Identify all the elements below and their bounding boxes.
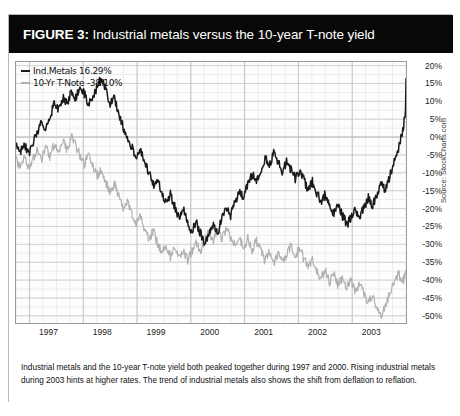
source-credit: Source: StockCharts.com [439,118,448,203]
y-axis-tick: 20% [425,61,442,70]
x-axis-tick: 2001 [254,327,273,337]
y-axis-tick: -40% [422,276,442,285]
y-axis-tick: -35% [422,258,442,267]
figure-number: FIGURE 3: [23,27,89,42]
figure-title-bar: FIGURE 3: Industrial metals versus the 1… [9,15,453,53]
legend-label-ind-metals: Ind.Metals 16.29% [33,66,112,76]
x-axis-labels: 1997199819992000200120022003 [15,327,407,343]
plot-frame: Ind.Metals 16.29% 10-Yr T-Note -38.10% [15,61,407,324]
y-axis-labels: 20%15%10%5%0%-5%-10%-15%-20%-25%-30%-35%… [408,61,442,324]
figure-caption: Industrial metals and the 10-year T-note… [21,362,441,387]
x-axis-tick: 2002 [308,327,327,337]
legend-item-t-note: 10-Yr T-Note -38.10% [21,77,122,88]
y-axis-tick: -50% [422,311,442,320]
y-axis-tick: 15% [425,79,442,88]
legend-swatch-ind-metals [21,70,30,72]
x-axis-tick: 2003 [362,327,381,337]
x-axis-tick: 1998 [93,327,112,337]
y-axis-tick: -30% [422,240,442,249]
figure-title: Industrial metals versus the 10-year T-n… [89,27,375,42]
line-chart [16,62,406,323]
page-title: FIGURE 3: Industrial metals versus the 1… [23,27,375,42]
y-axis-tick: -45% [422,293,442,302]
y-axis-tick: -25% [422,222,442,231]
y-axis-tick: -20% [422,204,442,213]
y-axis-tick: 10% [425,97,442,106]
x-axis-tick: 1997 [39,327,58,337]
x-axis-tick: 1999 [147,327,166,337]
legend-swatch-t-note [21,82,30,84]
legend-item-ind-metals: Ind.Metals 16.29% [21,65,122,76]
figure-container: FIGURE 3: Industrial metals versus the 1… [8,14,452,402]
x-axis-tick: 2000 [200,327,219,337]
legend-label-t-note: 10-Yr T-Note -38.10% [33,78,122,88]
chart-legend: Ind.Metals 16.29% 10-Yr T-Note -38.10% [21,65,122,89]
figure-caption-box: Industrial metals and the 10-year T-note… [9,356,453,402]
chart-area: Ind.Metals 16.29% 10-Yr T-Note -38.10% 2… [9,53,453,356]
